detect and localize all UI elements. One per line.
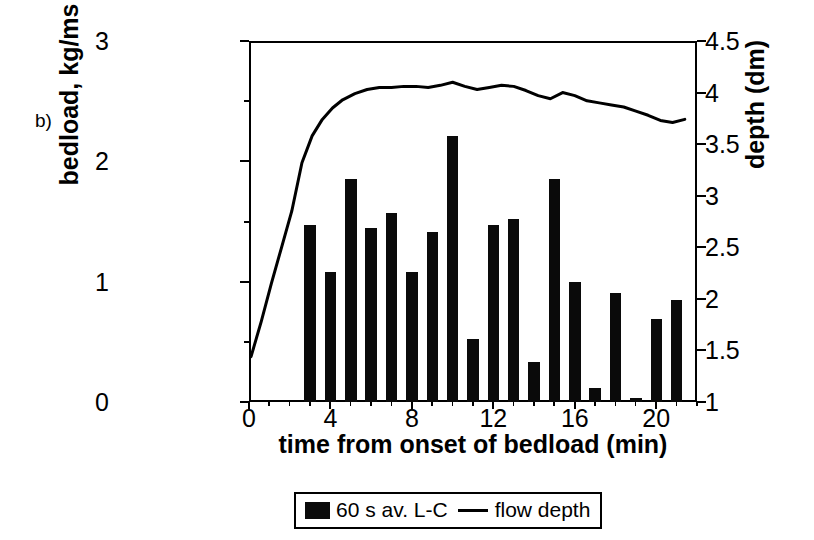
y-tick-label-left: 2 bbox=[49, 147, 109, 176]
y-tick-left bbox=[240, 160, 249, 162]
y-tick-label-right: 4 bbox=[705, 78, 775, 107]
y-tick-label-right: 4.5 bbox=[705, 27, 775, 56]
x-tick-label: 8 bbox=[387, 404, 437, 433]
x-tick-label: 4 bbox=[305, 404, 355, 433]
x-tick-minor bbox=[289, 402, 291, 406]
legend-line-swatch bbox=[458, 509, 488, 512]
y-tick-left bbox=[240, 40, 249, 42]
y-tick-label-right: 2 bbox=[705, 284, 775, 313]
y-tick-left bbox=[240, 281, 249, 283]
legend-bar-label: 60 s av. L-C bbox=[336, 498, 448, 522]
flow-depth-line-series bbox=[249, 41, 697, 402]
y-tick-label-right: 1 bbox=[705, 388, 775, 417]
x-tick-minor bbox=[452, 402, 454, 406]
x-tick-minor bbox=[533, 402, 535, 406]
y-tick-label-left: 1 bbox=[49, 267, 109, 296]
x-tick-minor bbox=[696, 402, 698, 406]
x-tick-label: 20 bbox=[631, 404, 681, 433]
chart-plot-area bbox=[249, 41, 697, 402]
x-tick-minor bbox=[370, 402, 372, 406]
x-tick-label: 12 bbox=[468, 404, 518, 433]
x-tick-minor bbox=[615, 402, 617, 406]
legend-bar-swatch bbox=[305, 502, 330, 519]
x-tick-label: 0 bbox=[224, 404, 274, 433]
y-tick-label-left: 3 bbox=[49, 27, 109, 56]
y-tick-label-right: 3.5 bbox=[705, 130, 775, 159]
x-tick-label: 16 bbox=[550, 404, 600, 433]
y-tick-left-minor bbox=[244, 341, 249, 343]
x-axis-title: time from onset of bedload (min) bbox=[228, 430, 718, 459]
y-tick-label-right: 2.5 bbox=[705, 233, 775, 262]
y-tick-label-right: 1.5 bbox=[705, 336, 775, 365]
legend-line-label: flow depth bbox=[495, 498, 591, 522]
y-tick-label-left: 0 bbox=[49, 388, 109, 417]
y-tick-left-minor bbox=[244, 100, 249, 102]
panel-label: b) bbox=[35, 110, 52, 132]
y-tick-left-minor bbox=[244, 221, 249, 223]
y-tick-label-right: 3 bbox=[705, 181, 775, 210]
chart-legend: 60 s av. L-C flow depth bbox=[294, 492, 602, 529]
